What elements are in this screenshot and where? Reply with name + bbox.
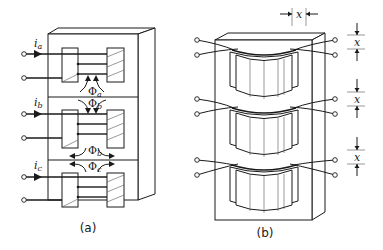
dimension-x-gap-3: x (347, 137, 365, 176)
svg-text:x: x (354, 36, 361, 49)
current-arrow-icon (34, 110, 42, 118)
terminal (22, 175, 27, 180)
terminal (22, 52, 27, 57)
current-arrow-icon (34, 50, 42, 58)
current-label-b: ib (34, 96, 43, 110)
current-arrow-icon (34, 173, 42, 181)
svg-text:x: x (296, 8, 303, 21)
dimension-x-top: x (280, 8, 318, 26)
current-label-a: ia (34, 37, 43, 51)
dimension-x-gap-1: x (347, 23, 365, 61)
terminal (22, 136, 27, 141)
caption-b: (b) (257, 226, 274, 240)
cylinder-winding-3 (230, 165, 298, 213)
terminal (22, 198, 27, 203)
panel-a: ia Φa ib (22, 28, 155, 235)
transformer-diagram: ia Φa ib (0, 0, 383, 250)
cylinder-winding-2 (230, 108, 298, 157)
terminal (22, 112, 27, 117)
svg-text:x: x (354, 93, 361, 106)
cylinder-winding-1 (230, 50, 298, 99)
panel-b: x x x x (b (195, 8, 365, 240)
dimension-x-gap-2: x (347, 79, 365, 118)
terminal (22, 76, 27, 81)
svg-text:x: x (354, 151, 361, 164)
current-label-c: ic (34, 159, 43, 173)
caption-a: (a) (80, 221, 97, 235)
